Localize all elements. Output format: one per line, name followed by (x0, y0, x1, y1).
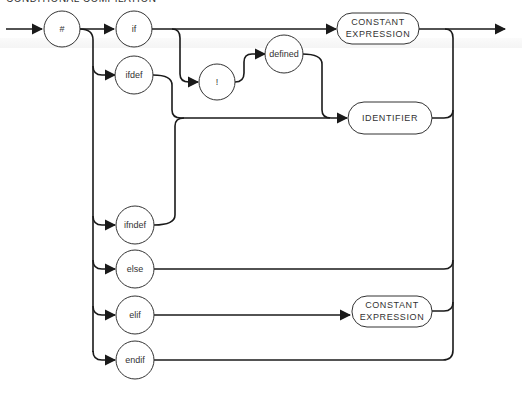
edge-if-not (172, 29, 198, 82)
edge-ifndef-identifier (154, 118, 184, 225)
edge-hash-else (93, 260, 115, 269)
edge-constexpr2-exit (432, 302, 453, 311)
svg-text:elif: elif (129, 310, 141, 320)
node-if: if (116, 11, 152, 47)
svg-text:if: if (132, 24, 137, 34)
node-endif: endif (116, 341, 154, 379)
svg-text:IDENTIFIER: IDENTIFIER (362, 113, 418, 123)
node-else: else (116, 250, 154, 288)
node-not: ! (199, 64, 235, 100)
terminal-constant-expression-bottom: CONSTANT EXPRESSION (352, 296, 432, 327)
svg-text:EXPRESSION: EXPRESSION (360, 312, 425, 322)
svg-text:defined: defined (269, 49, 299, 59)
edge-ifdef-identifier (153, 75, 330, 118)
svg-text:#: # (59, 24, 64, 34)
node-hash: # (44, 11, 80, 47)
node-elif: elif (116, 296, 154, 334)
svg-text:ifdef: ifdef (125, 70, 143, 80)
svg-text:CONSTANT: CONSTANT (351, 17, 405, 27)
edge-hash-ifdef (93, 66, 115, 75)
edge-hash-elif (93, 306, 115, 315)
svg-text:endif: endif (125, 355, 145, 365)
svg-text:CONSTANT: CONSTANT (365, 300, 419, 310)
syntax-diagram: # if ifdef ifndef else elif endif ! defi… (0, 0, 522, 393)
left-bus (80, 29, 93, 352)
edge-hash-endif (93, 351, 115, 360)
edge-hash-ifndef (93, 216, 115, 225)
terminal-identifier: IDENTIFIER (348, 102, 432, 134)
node-ifndef: ifndef (116, 206, 154, 244)
svg-text:!: ! (216, 77, 219, 87)
svg-text:EXPRESSION: EXPRESSION (346, 29, 411, 39)
node-defined: defined (265, 35, 303, 73)
edge-identifier-exit (432, 110, 453, 118)
edge-defined-identifier (302, 54, 347, 118)
edge-else-exit (154, 260, 453, 269)
svg-text:ifndef: ifndef (124, 220, 147, 230)
edge-not-defined (235, 54, 265, 82)
node-ifdef: ifdef (115, 56, 153, 94)
svg-text:else: else (127, 264, 144, 274)
terminal-constant-expression-top: CONSTANT EXPRESSION (337, 13, 419, 44)
